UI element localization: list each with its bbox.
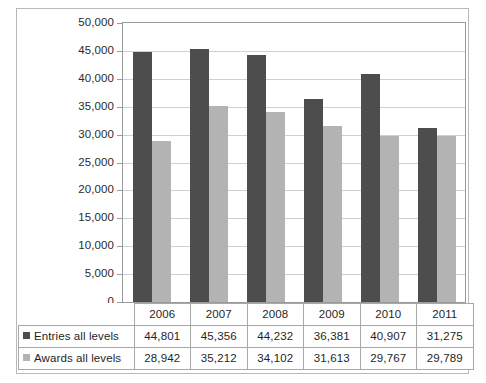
y-axis-tick-label: 15,000 xyxy=(48,212,114,224)
bar-group-2008 xyxy=(237,23,294,302)
bar-entries-2011[interactable] xyxy=(418,128,437,303)
bar-awards-2007[interactable] xyxy=(209,106,228,302)
data-table-wrapper: 200620072008200920102011Entries all leve… xyxy=(18,303,466,369)
table-cell: 31,613 xyxy=(304,348,361,370)
table-cell: 35,212 xyxy=(191,348,248,370)
awards-swatch xyxy=(23,354,30,361)
bar-awards-2009[interactable] xyxy=(323,126,342,302)
table-header-year-2006: 2006 xyxy=(134,304,191,326)
bar-entries-2010[interactable] xyxy=(361,74,380,302)
bar-entries-2006[interactable] xyxy=(133,52,152,302)
bar-group-2007 xyxy=(180,23,237,302)
table-row: Entries all levels44,80145,35644,23236,3… xyxy=(19,326,474,348)
table-header-year-2008: 2008 xyxy=(247,304,304,326)
table-header-year-2011: 2011 xyxy=(417,304,474,326)
bar-entries-2007[interactable] xyxy=(190,49,209,302)
table-cell: 45,356 xyxy=(191,326,248,348)
bars-layer xyxy=(123,23,465,302)
table-header-year-2009: 2009 xyxy=(304,304,361,326)
y-axis-tick-label: 20,000 xyxy=(48,184,114,196)
table-cell: 28,942 xyxy=(134,348,191,370)
table-header-year-2010: 2010 xyxy=(360,304,417,326)
table-cell: 44,232 xyxy=(247,326,304,348)
bar-awards-2006[interactable] xyxy=(152,141,171,302)
table-cell: 40,907 xyxy=(360,326,417,348)
y-axis-tick-label: 10,000 xyxy=(48,240,114,252)
table-cell: 36,381 xyxy=(304,326,361,348)
table-header-row: 200620072008200920102011 xyxy=(19,304,474,326)
y-axis-tick-label: 40,000 xyxy=(48,73,114,85)
table-header-year-2007: 2007 xyxy=(191,304,248,326)
y-axis-tick-label: 25,000 xyxy=(48,157,114,169)
y-axis-tick-label: 5,000 xyxy=(48,268,114,280)
y-axis-tick-label: 50,000 xyxy=(48,17,114,29)
plot-area xyxy=(122,22,466,303)
table-cell: 29,789 xyxy=(417,348,474,370)
bar-awards-2011[interactable] xyxy=(437,136,456,302)
bar-group-2011 xyxy=(408,23,465,302)
bar-entries-2009[interactable] xyxy=(304,99,323,302)
bar-awards-2008[interactable] xyxy=(266,112,285,302)
legend-label: Awards all levels xyxy=(34,352,121,364)
legend-label: Entries all levels xyxy=(34,330,119,342)
bar-entries-2008[interactable] xyxy=(247,55,266,302)
bar-group-2006 xyxy=(123,23,180,302)
legend-item-awards: Awards all levels xyxy=(19,348,135,370)
bar-group-2009 xyxy=(294,23,351,302)
bar-awards-2010[interactable] xyxy=(380,136,399,302)
bar-group-2010 xyxy=(351,23,408,302)
table-cell: 31,275 xyxy=(417,326,474,348)
table-cell: 44,801 xyxy=(134,326,191,348)
table-cell: 34,102 xyxy=(247,348,304,370)
legend-item-entries: Entries all levels xyxy=(19,326,135,348)
entries-swatch xyxy=(23,332,30,339)
data-table: 200620072008200920102011Entries all leve… xyxy=(18,303,474,370)
y-axis-tick-label: 30,000 xyxy=(48,129,114,141)
y-axis-tick-label: 45,000 xyxy=(48,45,114,57)
y-axis-tick-label: 35,000 xyxy=(48,101,114,113)
table-row: Awards all levels28,94235,21234,10231,61… xyxy=(19,348,474,370)
table-corner-cell xyxy=(19,304,135,326)
chart-figure: 50,00045,00040,00035,00030,00025,00020,0… xyxy=(0,0,486,383)
table-cell: 29,767 xyxy=(360,348,417,370)
